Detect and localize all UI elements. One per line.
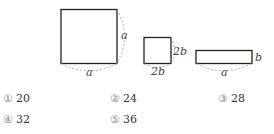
option-value: 20 [16,92,30,105]
option-1[interactable]: ①20 [3,92,30,105]
option-value: 28 [231,92,245,105]
option-marker: ④ [3,113,13,126]
small-square-height-label: 2b [172,45,187,58]
large-square-height-label: a [121,29,128,42]
option-2[interactable]: ②24 [110,92,137,105]
option-value: 32 [16,113,30,126]
option-5[interactable]: ⑤36 [110,113,137,126]
option-marker: ① [3,92,13,105]
option-value: 24 [123,92,137,105]
option-marker: ② [110,92,120,105]
large-square-width-label: a [86,66,93,79]
rectangle-height-label: b [255,51,262,64]
option-marker: ③ [218,92,228,105]
option-4[interactable]: ④32 [3,113,30,126]
option-value: 36 [123,113,137,126]
option-3[interactable]: ③28 [218,92,245,105]
large-square: a a [61,10,128,80]
small-square: 2b 2b [144,38,187,79]
rectangle-width-label: a [221,66,228,79]
figures-diagram: a a 2b 2b b a [0,0,274,134]
option-marker: ⑤ [110,113,120,126]
small-square-width-label: 2b [150,65,165,78]
rectangle: b a [196,51,262,80]
